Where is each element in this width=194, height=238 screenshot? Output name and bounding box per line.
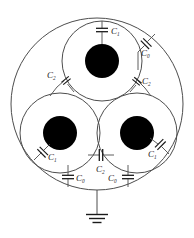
cap-bottom-right-c0-subscript: 0 — [114, 178, 117, 184]
cap-bottom-right-c1-lead-outer — [162, 147, 170, 155]
cap-bottom-right-c1-plate-outer — [157, 142, 165, 150]
core-top-conductor — [85, 44, 119, 78]
cap-left-c2-label: C2 — [47, 70, 56, 81]
cap-left-c2-subscript: 2 — [53, 75, 56, 81]
cap-bottom-right-c1-label: C1 — [148, 149, 157, 160]
cap-bottom-right-c1-plate-inner — [155, 139, 163, 147]
diagram-canvas: C1 C0 C2 C2 — [0, 0, 194, 238]
cap-top-right-c0-subscript: 0 — [147, 53, 150, 59]
cap-bottom-left-c1-lead-outer — [34, 153, 42, 161]
cap-left-c2-group: C2 — [47, 70, 74, 96]
cap-bottom-left-c1-lead-inner — [44, 144, 50, 150]
cap-top-right-c0-plate-outer — [143, 38, 151, 46]
cap-bottom-left-c1-plate-inner — [40, 147, 48, 155]
cap-top-c1-subscript: 1 — [117, 31, 120, 37]
cap-top-right-c0-group: C0 — [138, 34, 155, 70]
cap-bottom-right-c0-label: C0 — [108, 173, 117, 184]
cap-top-c1-label: C1 — [111, 26, 120, 37]
cap-bottom-left-c0-subscript: 0 — [82, 178, 85, 184]
core-bottom-left-conductor — [43, 116, 77, 150]
cap-bottom-left-c1-subscript: 1 — [54, 157, 57, 163]
cap-bottom-center-c2-label: C2 — [96, 164, 105, 175]
cap-right-c2-label: C2 — [142, 76, 151, 87]
cap-bottom-right-c1-subscript: 1 — [154, 154, 157, 160]
cap-bottom-left-c0-label: C0 — [76, 173, 85, 184]
core-bottom-right-conductor — [120, 116, 154, 150]
circuit-diagram-svg: C1 C0 C2 C2 — [0, 0, 194, 238]
cap-bottom-center-c2-subscript: 2 — [102, 169, 105, 175]
cap-left-c2-lead-tail — [50, 87, 57, 96]
cap-top-right-c0-label: C0 — [141, 48, 150, 59]
cap-right-c2-subscript: 2 — [148, 81, 151, 87]
cap-bottom-left-c1-plate-outer — [37, 149, 45, 157]
ground-symbol — [86, 190, 108, 223]
cap-bottom-left-c1-label: C1 — [48, 152, 57, 163]
cap-top-c1-group: C1 — [96, 21, 120, 44]
